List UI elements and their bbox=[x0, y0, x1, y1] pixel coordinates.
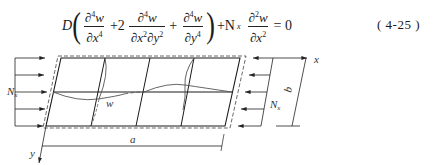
width-dimension bbox=[292, 58, 306, 126]
load-label-right: Nx bbox=[269, 98, 281, 112]
x-axis-label: x bbox=[313, 53, 319, 65]
y-axis-label: y bbox=[29, 147, 35, 159]
deflection-label: w bbox=[106, 97, 114, 109]
y-axis bbox=[39, 126, 46, 163]
length-label: a bbox=[130, 133, 136, 145]
load-label-left: Nx bbox=[6, 85, 18, 99]
dimension-extension bbox=[221, 134, 224, 151]
width-label: b bbox=[281, 85, 294, 93]
left-load-arrows bbox=[15, 58, 47, 126]
transverse-wave bbox=[99, 58, 106, 99]
buckled-wave bbox=[53, 92, 124, 100]
plate-buckling-diagram: Nx Nx x b a y w bbox=[0, 0, 444, 165]
